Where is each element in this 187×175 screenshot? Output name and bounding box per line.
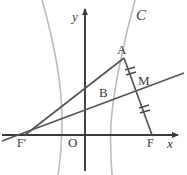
geometry-figure-canvas: A B M C O F F′ x y (0, 0, 187, 175)
tick-marks-am (125, 67, 136, 75)
label-focus-right: F (147, 137, 154, 149)
hyperbola-left-branch (42, 0, 62, 175)
label-point-a: A (117, 43, 126, 56)
line-fprime-b-m (2, 73, 184, 141)
label-origin: O (68, 136, 77, 149)
label-point-b: B (99, 86, 108, 99)
hyperbola-right-branch (111, 0, 135, 175)
label-axis-y: y (72, 10, 78, 23)
label-axis-x: x (167, 137, 173, 150)
label-focus-left: F′ (17, 137, 26, 149)
diagram-svg (0, 0, 187, 175)
segment-fprime-a (25, 58, 124, 135)
label-curve-c: C (136, 8, 146, 23)
label-point-m: M (138, 74, 150, 87)
